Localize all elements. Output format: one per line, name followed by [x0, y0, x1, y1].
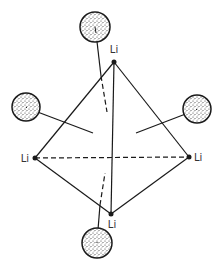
tetrahedron-edges — [35, 62, 189, 214]
edge-top-right — [114, 62, 189, 157]
bond-top-hidden — [101, 76, 107, 112]
li-label-left: Li — [21, 153, 29, 164]
li-vertex-left — [33, 156, 38, 161]
lithium-tetrahedron-diagram: Li Li Li Li — [0, 0, 222, 269]
li-vertex-right — [187, 155, 192, 160]
li-vertex-top — [112, 60, 117, 65]
edge-right-bottom — [111, 157, 189, 214]
li-vertex-bottom — [109, 212, 114, 217]
li-label-right: Li — [194, 152, 202, 163]
bond-bottom-hidden — [100, 173, 105, 205]
li-label-bottom: Li — [108, 219, 116, 230]
right-bond-stub — [196, 109, 197, 110]
edge-top-bottom — [111, 62, 114, 214]
left-bond-stub — [26, 107, 27, 108]
edge-top-left — [35, 62, 114, 158]
li-label-top: Li — [110, 44, 118, 55]
